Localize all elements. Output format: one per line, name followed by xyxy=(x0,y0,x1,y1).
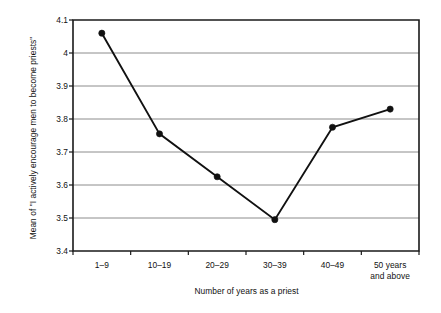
x-axis-tick-label: 30–39 xyxy=(263,260,287,271)
x-axis-tick-label: 50 years and above xyxy=(370,260,410,281)
x-axis-tick-label: 20–29 xyxy=(205,260,229,271)
x-axis-tick-label: 1–9 xyxy=(95,260,109,271)
x-axis-tick-label: 10–19 xyxy=(148,260,172,271)
x-axis-title: Number of years as a priest xyxy=(73,286,420,296)
x-axis-tick-label: 40–49 xyxy=(321,260,345,271)
chart-container: Mean of "I actively encourage men to bec… xyxy=(0,0,441,313)
x-axis-tick-labels: 1–910–1920–2930–3940–4950 years and abov… xyxy=(0,0,441,313)
